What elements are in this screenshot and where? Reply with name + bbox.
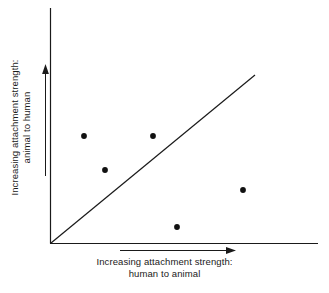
- data-point: [102, 167, 108, 173]
- plot-canvas: [0, 0, 329, 293]
- arrow-up-icon: [42, 64, 49, 176]
- data-point: [150, 133, 156, 139]
- x-axis-label: Increasing attachment strength: human to…: [0, 256, 329, 279]
- arrow-right-icon: [120, 247, 236, 254]
- scatter-plot-figure: Increasing attachment strength: human to…: [0, 0, 329, 293]
- data-point: [240, 187, 246, 193]
- x-axis-label-line2: human to animal: [0, 268, 329, 280]
- y-axis-label: Increasing attachment strength: animal t…: [9, 2, 32, 254]
- equality-reference-line: [51, 75, 255, 243]
- y-axis-label-line2: animal to human: [20, 2, 32, 254]
- x-axis-label-line1: Increasing attachment strength:: [96, 256, 232, 267]
- data-point: [174, 224, 180, 230]
- data-point: [81, 133, 87, 139]
- y-axis-label-container: Increasing attachment strength: animal t…: [0, 0, 40, 293]
- y-axis-label-line1: Increasing attachment strength:: [9, 59, 20, 195]
